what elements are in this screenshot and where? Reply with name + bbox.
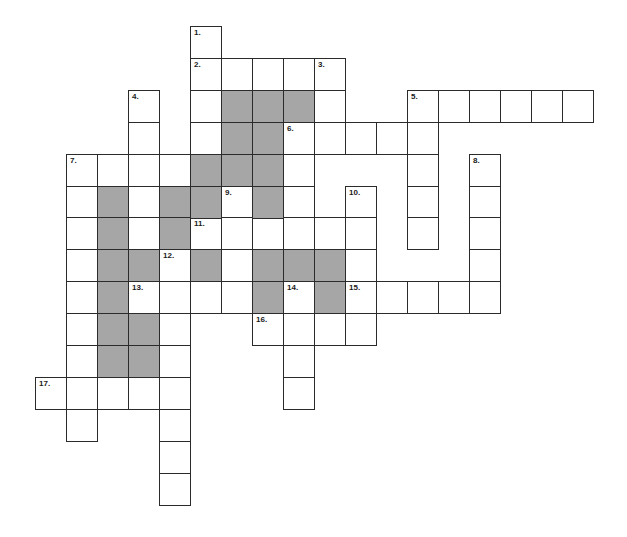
shaded-block (252, 186, 284, 219)
crossword-cell[interactable] (500, 90, 532, 123)
shaded-block (283, 249, 315, 282)
crossword-cell[interactable] (407, 217, 439, 250)
crossword-cell[interactable] (128, 186, 160, 219)
crossword-cell[interactable] (221, 217, 253, 250)
crossword-cell[interactable] (469, 249, 501, 282)
crossword-cell[interactable] (314, 217, 346, 250)
crossword-cell[interactable] (66, 345, 98, 378)
crossword-cell[interactable] (345, 217, 377, 250)
crossword-cell[interactable] (283, 217, 315, 250)
crossword-cell[interactable] (407, 281, 439, 314)
crossword-cell[interactable] (407, 154, 439, 187)
crossword-cell[interactable] (252, 217, 284, 250)
crossword-cell[interactable] (469, 217, 501, 250)
crossword-cell[interactable]: 11. (190, 217, 222, 250)
crossword-cell[interactable]: 1. (190, 26, 222, 59)
crossword-cell[interactable] (283, 345, 315, 378)
crossword-cell[interactable] (345, 313, 377, 346)
crossword-cell[interactable] (376, 281, 408, 314)
crossword-cell[interactable] (66, 313, 98, 346)
crossword-cell[interactable]: 8. (469, 154, 501, 187)
crossword-cell[interactable]: 17. (35, 377, 67, 410)
crossword-cell[interactable] (66, 249, 98, 282)
shaded-block (252, 90, 284, 123)
crossword-cell[interactable] (314, 313, 346, 346)
crossword-cell[interactable] (159, 281, 191, 314)
crossword-cell[interactable] (221, 58, 253, 91)
crossword-cell[interactable] (283, 58, 315, 91)
crossword-cell[interactable] (283, 154, 315, 187)
clue-number: 14. (287, 284, 298, 292)
crossword-cell[interactable]: 15. (345, 281, 377, 314)
crossword-cell[interactable]: 4. (128, 90, 160, 123)
crossword-cell[interactable]: 13. (128, 281, 160, 314)
crossword-cell[interactable]: 16. (252, 313, 284, 346)
clue-number: 6. (287, 125, 294, 133)
crossword-cell[interactable] (345, 249, 377, 282)
shaded-block (252, 122, 284, 155)
crossword-cell[interactable]: 10. (345, 186, 377, 219)
crossword-cell[interactable] (128, 154, 160, 187)
crossword-cell[interactable] (66, 409, 98, 442)
crossword-cell[interactable] (159, 345, 191, 378)
crossword-cell[interactable] (128, 217, 160, 250)
crossword-cell[interactable] (128, 122, 160, 155)
crossword-cell[interactable] (159, 154, 191, 187)
crossword-cell[interactable] (407, 186, 439, 219)
crossword-cell[interactable] (283, 313, 315, 346)
crossword-cell[interactable] (283, 377, 315, 410)
shaded-block (97, 313, 129, 346)
crossword-cell[interactable]: 3. (314, 58, 346, 91)
shaded-block (97, 186, 129, 219)
crossword-cell[interactable] (438, 281, 470, 314)
crossword-cell[interactable] (252, 58, 284, 91)
crossword-cell[interactable] (128, 377, 160, 410)
crossword-cell[interactable] (159, 409, 191, 442)
crossword-cell[interactable] (66, 186, 98, 219)
crossword-cell[interactable] (438, 90, 470, 123)
crossword-cell[interactable] (159, 473, 191, 506)
crossword-cell[interactable] (66, 217, 98, 250)
shaded-block (190, 249, 222, 282)
shaded-block (252, 249, 284, 282)
shaded-block (128, 345, 160, 378)
crossword-cell[interactable]: 12. (159, 249, 191, 282)
crossword-cell[interactable] (376, 122, 408, 155)
crossword-cell[interactable] (407, 122, 439, 155)
crossword-cell[interactable] (97, 377, 129, 410)
crossword-cell[interactable] (159, 377, 191, 410)
crossword-cell[interactable] (314, 90, 346, 123)
crossword-cell[interactable] (66, 377, 98, 410)
shaded-block (283, 90, 315, 123)
crossword-cell[interactable] (531, 90, 563, 123)
clue-number: 13. (132, 284, 143, 292)
crossword-cell[interactable] (469, 186, 501, 219)
shaded-block (314, 249, 346, 282)
crossword-cell[interactable] (469, 281, 501, 314)
shaded-block (97, 249, 129, 282)
crossword-cell[interactable] (314, 122, 346, 155)
crossword-cell[interactable] (469, 90, 501, 123)
crossword-cell[interactable] (345, 122, 377, 155)
shaded-block (221, 90, 253, 123)
crossword-cell[interactable]: 14. (283, 281, 315, 314)
crossword-cell[interactable] (190, 122, 222, 155)
clue-number: 2. (194, 61, 201, 69)
crossword-cell[interactable] (66, 281, 98, 314)
crossword-cell[interactable]: 6. (283, 122, 315, 155)
shaded-block (97, 345, 129, 378)
crossword-cell[interactable] (190, 281, 222, 314)
crossword-cell[interactable]: 5. (407, 90, 439, 123)
crossword-cell[interactable] (159, 441, 191, 474)
crossword-cell[interactable] (97, 154, 129, 187)
crossword-cell[interactable] (221, 281, 253, 314)
crossword-cell[interactable]: 7. (66, 154, 98, 187)
crossword-cell[interactable]: 2. (190, 58, 222, 91)
crossword-cell[interactable]: 9. (221, 186, 253, 219)
crossword-cell[interactable] (283, 186, 315, 219)
crossword-cell[interactable] (562, 90, 594, 123)
crossword-cell[interactable] (159, 313, 191, 346)
clue-number: 10. (349, 189, 360, 197)
crossword-cell[interactable] (190, 90, 222, 123)
crossword-cell[interactable] (221, 249, 253, 282)
